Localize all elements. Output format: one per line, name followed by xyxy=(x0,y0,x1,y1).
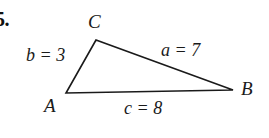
vertex-label-c: C xyxy=(88,12,101,31)
triangle-outline xyxy=(66,40,233,93)
side-label-a: a = 7 xyxy=(161,41,200,59)
vertex-label-b: B xyxy=(241,79,253,98)
vertex-label-a: A xyxy=(44,96,56,115)
triangle-figure: 5. C A B b = 3 a = 7 c = 8 xyxy=(0,0,269,138)
side-label-c: c = 8 xyxy=(124,99,162,117)
side-label-b: b = 3 xyxy=(26,46,65,64)
